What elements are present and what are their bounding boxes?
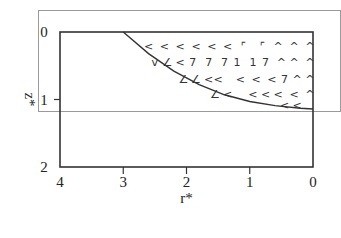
vector-arrow-icon: <: [144, 40, 153, 53]
x-axis-label: r*: [180, 190, 193, 206]
vector-arrow-icon: ^: [289, 40, 298, 53]
vector-arrow-icon: ⌜: [260, 40, 265, 53]
x-tick-label: 1: [246, 174, 254, 190]
vector-arrow-icon: ^: [274, 40, 283, 53]
vector-arrow-icon: 7: [189, 56, 196, 69]
vector-arrow-icon: ^: [305, 88, 314, 101]
vector-arrow-icon: <: [204, 73, 213, 86]
vector-arrow-icon: ∠: [191, 73, 201, 86]
x-axis-ticks: 43210: [56, 167, 317, 190]
vector-arrow-icon: <: [176, 56, 185, 69]
vector-arrow-icon: <: [261, 88, 270, 101]
vector-arrow-icon: ^: [289, 56, 298, 69]
vector-arrow-icon: ^: [277, 56, 286, 69]
vector-arrow-icon: <: [293, 99, 302, 112]
vector-arrow-icon: 7: [205, 56, 212, 69]
vector-arrow-icon: ∠: [163, 56, 173, 69]
vector-arrow-icon: ∠: [178, 73, 188, 86]
vector-arrow-icon: <: [280, 99, 289, 112]
vector-arrow-icon: ^: [293, 73, 302, 86]
vector-arrow-icon: <: [251, 73, 260, 86]
vector-arrow-icon: ^: [305, 56, 314, 69]
vector-arrow-icon: 1: [234, 56, 241, 69]
x-tick-label: 3: [120, 174, 128, 190]
vector-arrow-icon: v: [152, 56, 159, 69]
vector-arrow-icon: <: [176, 40, 185, 53]
vector-arrow-icon: <: [214, 73, 223, 86]
vector-arrow-icon: ∠: [210, 88, 220, 101]
vector-arrow-icon: 1: [249, 56, 256, 69]
vector-arrow-icon: <: [223, 88, 232, 101]
x-tick-label: 0: [309, 174, 317, 190]
vector-arrow-icon: 7: [281, 73, 288, 86]
vector-arrow-icon: <: [236, 73, 245, 86]
vector-arrow-icon: ^: [305, 73, 314, 86]
y-axis-label: z*: [22, 92, 38, 106]
vector-arrow-icon: ^: [305, 40, 314, 53]
vector-arrow-icon: <: [248, 88, 257, 101]
vector-arrow-icon: 7: [221, 56, 228, 69]
vector-arrow-icon: <: [207, 40, 216, 53]
vector-field: <<<<<<⌜⌜^^^v∠<777117^^^∠∠<<<<<7^^∠<<<<<^…: [144, 40, 315, 112]
vector-arrow-icon: 7: [262, 56, 269, 69]
y-axis-ticks: 012: [40, 24, 60, 175]
vector-arrow-icon: <: [160, 40, 169, 53]
vector-arrow-icon: <: [267, 73, 276, 86]
y-tick-label: 1: [40, 92, 48, 108]
x-tick-label: 2: [183, 174, 191, 190]
vector-arrow-icon: ⌜: [241, 40, 246, 53]
vector-arrow-icon: <: [223, 40, 232, 53]
y-tick-label: 0: [40, 24, 48, 40]
vector-arrow-icon: <: [191, 40, 200, 53]
x-tick-label: 4: [56, 174, 64, 190]
y-tick-label: 2: [40, 159, 48, 175]
